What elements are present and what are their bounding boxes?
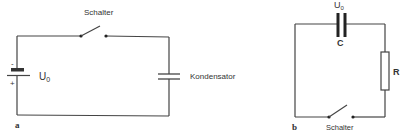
voltage-subscript-b: 0	[341, 5, 345, 11]
capacitor-b-icon	[337, 13, 347, 37]
wire-a-bottom	[17, 115, 169, 116]
switch-label-b: Schalter	[326, 123, 354, 132]
switch-label-a: Schalter	[84, 8, 114, 17]
capacitor-label-b: C	[337, 38, 344, 48]
wire-a-top-right	[106, 36, 169, 37]
switch-a-icon	[79, 26, 107, 38]
figure-label-a: a	[15, 120, 20, 130]
capacitor-a-icon	[158, 74, 180, 79]
battery-plus-label: +	[10, 79, 15, 88]
battery-minus-label: -	[11, 59, 14, 68]
battery-icon	[7, 68, 30, 76]
switch-b-icon	[327, 105, 354, 119]
voltage-label-a: U0	[39, 71, 50, 83]
resistor-icon	[381, 52, 389, 90]
circuit-diagrams: - + U0 Schalter Kondensator a U0 C R	[0, 0, 404, 133]
resistor-label: R	[393, 67, 400, 77]
voltage-symbol-a: U	[39, 71, 46, 82]
figure-label-b: b	[292, 122, 297, 132]
voltage-subscript-a: 0	[46, 76, 50, 83]
voltage-label-b: U0	[334, 0, 345, 11]
capacitor-label-a: Kondensator	[190, 72, 236, 81]
